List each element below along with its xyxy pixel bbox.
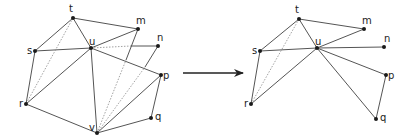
right-edge-u-n <box>317 47 384 48</box>
left-edge-t-m <box>73 18 138 29</box>
left-label-u: u <box>89 36 95 47</box>
left-edge-s-u <box>35 48 91 51</box>
right-label-u: u <box>315 36 321 47</box>
right-node-m <box>362 27 366 31</box>
right-edge-t-s <box>260 19 299 51</box>
left-edge-segment <box>97 60 126 133</box>
left-label-q: q <box>155 111 161 122</box>
left-edge-u-r <box>26 48 91 104</box>
left-node-s <box>33 49 37 53</box>
left-edge-segment <box>91 46 131 48</box>
left-label-t: t <box>69 3 73 14</box>
left-node-m <box>136 27 140 31</box>
left-edge-u-m <box>91 29 138 48</box>
triangulation-diagram: tmsunprqv tmsunprq <box>0 0 411 140</box>
right-label-s: s <box>252 45 257 56</box>
left-node-t <box>71 16 75 20</box>
left-label-v: v <box>89 122 95 133</box>
right-label-r: r <box>244 98 249 109</box>
right-edge-u-r <box>251 48 317 104</box>
left-node-n <box>156 44 160 48</box>
left-label-m: m <box>136 15 146 26</box>
right-label-m: m <box>362 15 372 26</box>
left-node-v <box>95 131 99 135</box>
right-node-n <box>382 45 386 49</box>
right-label-t: t <box>295 4 299 15</box>
left-edge-u-v <box>91 48 97 133</box>
right-edge-t-m <box>299 19 364 29</box>
right-node-t <box>297 17 301 21</box>
left-node-q <box>149 116 153 120</box>
right-label-q: q <box>380 112 386 123</box>
left-edge-segment <box>145 46 158 67</box>
right-edge-s-u <box>260 48 317 51</box>
left-edge-u-p <box>91 48 161 75</box>
right-triangulation: tmsunprq <box>244 4 394 123</box>
left-label-n: n <box>157 32 163 43</box>
left-label-s: s <box>27 45 32 56</box>
right-edge-u-p <box>317 48 386 75</box>
right-label-p: p <box>388 70 394 81</box>
left-edge-t-s <box>35 18 73 51</box>
left-label-p: p <box>163 70 169 81</box>
left-edge-s-r <box>26 51 35 104</box>
left-edge-segment <box>97 67 145 133</box>
right-edge-u-q <box>317 48 376 119</box>
right-label-n: n <box>384 33 390 44</box>
left-node-r <box>24 102 28 106</box>
right-node-s <box>258 49 262 53</box>
right-node-r <box>249 102 253 106</box>
right-edge-u-m <box>317 29 364 48</box>
left-triangulation: tmsunprqv <box>19 3 169 135</box>
left-edge-r-v <box>26 104 97 133</box>
right-node-q <box>374 117 378 121</box>
left-label-r: r <box>19 98 24 109</box>
